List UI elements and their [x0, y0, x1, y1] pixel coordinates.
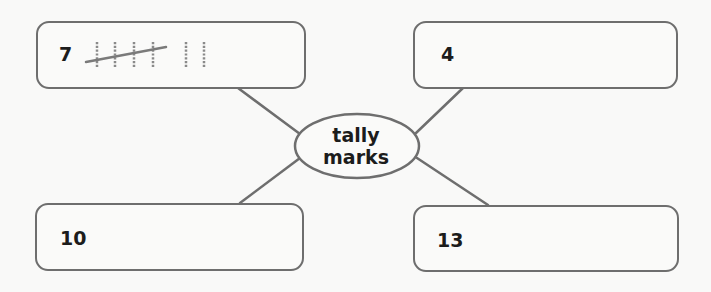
connector-top-left: [238, 88, 300, 134]
node-number-top-right: 4: [441, 45, 454, 64]
connector-bottom-right: [417, 158, 488, 205]
center-label-line1: tally: [332, 124, 379, 146]
box-top-left: [36, 21, 306, 89]
center-label: tally marks: [294, 114, 418, 178]
node-number-bottom-left: 10: [60, 229, 86, 248]
connector-bottom-left: [240, 158, 300, 203]
center-label-line2: marks: [323, 146, 389, 168]
node-number-bottom-right: 13: [437, 231, 463, 250]
connector-top-right: [416, 88, 463, 133]
node-number-top-left: 7: [59, 45, 72, 64]
